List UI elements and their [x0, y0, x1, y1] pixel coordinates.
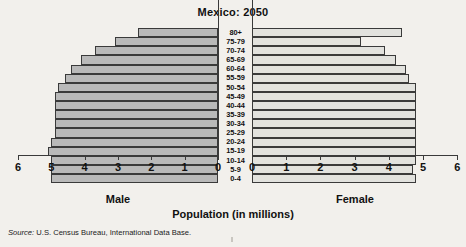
bar-row — [18, 55, 218, 64]
axis-tick — [18, 156, 19, 160]
age-group-label: 75-79 — [219, 37, 252, 46]
age-group-label: 40-44 — [219, 101, 252, 110]
age-group-label: 15-19 — [219, 147, 252, 156]
male-bar-35-39 — [55, 110, 218, 119]
axis-tick-label: 6 — [8, 161, 28, 173]
age-group-label: 20-24 — [219, 138, 252, 147]
axis-tick-label: 1 — [276, 161, 296, 173]
age-group-label: 35-39 — [219, 110, 252, 119]
male-bar-50-54 — [58, 83, 218, 92]
axis-tick — [457, 156, 458, 160]
axis-tick — [151, 156, 152, 160]
age-group-label: 60-64 — [219, 65, 252, 74]
axis-tick-label: 2 — [141, 161, 161, 173]
bar-row — [252, 128, 457, 137]
axis-tick — [389, 156, 390, 160]
age-group-label: 65-69 — [219, 55, 252, 64]
bar-row — [18, 138, 218, 147]
bar-row — [18, 65, 218, 74]
axis-tick — [355, 156, 356, 160]
axis-tick-label: 5 — [41, 161, 61, 173]
source-text: U.S. Census Bureau, International Data B… — [34, 228, 191, 237]
female-bar-55-59 — [252, 74, 409, 83]
male-bar-60-64 — [71, 65, 218, 74]
axis-tick — [320, 156, 321, 160]
female-bar-30-34 — [252, 119, 416, 128]
axis-tick — [85, 156, 86, 160]
bar-row — [18, 101, 218, 110]
male-bar-20-24 — [51, 138, 218, 147]
bar-row — [252, 46, 457, 55]
male-bar-0-4 — [51, 174, 218, 183]
age-group-label: 30-34 — [219, 119, 252, 128]
axis-tick-label: 0 — [242, 161, 262, 173]
axis-tick-label: 2 — [310, 161, 330, 173]
bar-row — [252, 119, 457, 128]
age-group-label: 70-74 — [219, 46, 252, 55]
male-bar-40-44 — [55, 101, 218, 110]
axis-tick-label: 6 — [447, 161, 466, 173]
bar-row — [252, 101, 457, 110]
female-bar-0-4 — [252, 174, 416, 183]
age-group-label: 55-59 — [219, 74, 252, 83]
axis-tick — [423, 156, 424, 160]
male-bar-25-29 — [55, 128, 218, 137]
female-bar-75-79 — [252, 37, 361, 46]
axis-tick-label: 0 — [208, 161, 228, 173]
bar-row — [18, 119, 218, 128]
bar-row — [252, 83, 457, 92]
bar-row — [252, 65, 457, 74]
bar-row — [18, 28, 218, 37]
axis-tick-label: 5 — [413, 161, 433, 173]
male-bar-75-79 — [115, 37, 218, 46]
axis-tick — [51, 156, 52, 160]
age-group-label: 80+ — [219, 28, 252, 37]
axis-tick — [118, 156, 119, 160]
bar-row — [252, 138, 457, 147]
female-bar-70-74 — [252, 46, 385, 55]
axis-tick — [218, 156, 219, 160]
female-bar-45-49 — [252, 92, 416, 101]
bar-row — [252, 174, 457, 183]
axis-tick — [252, 156, 253, 160]
female-bar-25-29 — [252, 128, 416, 137]
age-group-label: 0-4 — [219, 174, 252, 183]
bar-row — [18, 174, 218, 183]
male-bar-30-34 — [55, 119, 218, 128]
bar-row — [252, 55, 457, 64]
bar-row — [18, 92, 218, 101]
female-axis-label: Female — [295, 193, 415, 205]
female-bar-65-69 — [252, 55, 396, 64]
x-axis-title: Population (in millions) — [0, 208, 466, 220]
bar-row — [252, 74, 457, 83]
population-pyramid-chart: Mexico: 2050 80+75-7970-7465-6960-6455-5… — [0, 0, 466, 247]
axis-tick-label: 3 — [345, 161, 365, 173]
female-bar-20-24 — [252, 138, 416, 147]
male-bar-45-49 — [55, 92, 218, 101]
bar-row — [252, 110, 457, 119]
female-bar-50-54 — [252, 83, 416, 92]
axis-tick — [286, 156, 287, 160]
axis-tick-label: 4 — [75, 161, 95, 173]
female-bar-35-39 — [252, 110, 416, 119]
male-bar-70-74 — [95, 46, 218, 55]
axis-tick-label: 1 — [175, 161, 195, 173]
bar-row — [18, 128, 218, 137]
source-note: Source: U.S. Census Bureau, Internationa… — [8, 228, 191, 237]
bar-row — [252, 92, 457, 101]
bar-row — [18, 83, 218, 92]
source-prefix: Source: — [8, 228, 34, 237]
male-bar-65-69 — [81, 55, 218, 64]
bar-row — [18, 74, 218, 83]
chart-title: Mexico: 2050 — [0, 6, 466, 18]
bar-row — [252, 28, 457, 37]
female-bar-80+ — [252, 28, 402, 37]
age-group-label: 25-29 — [219, 128, 252, 137]
bar-row — [18, 110, 218, 119]
age-group-label: 45-49 — [219, 92, 252, 101]
bar-row — [252, 37, 457, 46]
axis-tick — [185, 156, 186, 160]
age-group-label-column: 80+75-7970-7465-6960-6455-5950-5445-4940… — [219, 28, 252, 183]
axis-tick-label: 4 — [379, 161, 399, 173]
scan-artifact — [231, 237, 233, 242]
